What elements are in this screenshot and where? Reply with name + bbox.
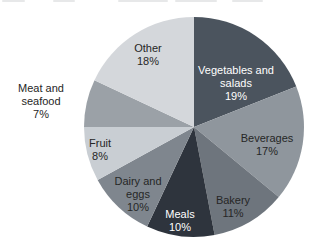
cropped-text-artifact xyxy=(53,0,75,2)
cropped-text-artifact xyxy=(2,0,25,2)
pie-label-other: Other18% xyxy=(134,42,162,67)
cropped-text-artifact xyxy=(232,0,263,2)
cropped-text-artifact xyxy=(118,0,168,2)
pie-chart: Vegetables andsalads19%Beverages17%Baker… xyxy=(0,0,312,245)
pie-label-fruit: Fruit8% xyxy=(89,137,111,162)
pie-label-meat-and-seafood: Meat andseafood7% xyxy=(18,82,64,120)
pie-label-meals: Meals10% xyxy=(165,208,195,233)
pie-chart-figure: Vegetables andsalads19%Beverages17%Baker… xyxy=(0,0,312,245)
cropped-text-artifact xyxy=(175,0,217,2)
